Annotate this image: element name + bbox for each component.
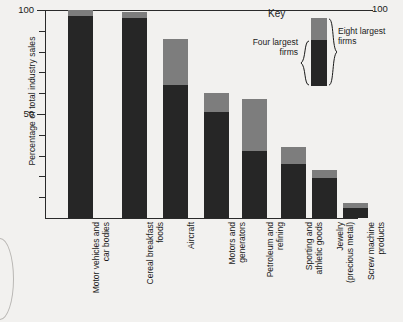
x-axis-label-0: Motor vehicles andcar bodies	[91, 222, 111, 322]
x-axis-label-5: Sporting andathletic goods	[304, 222, 324, 322]
x-axis-label-0-line1: Motor vehicles and	[91, 222, 101, 322]
x-axis-label-5-line1: Sporting and	[304, 222, 314, 322]
x-axis-label-5-line2: athletic goods	[314, 222, 324, 322]
x-axis-label-3: Motors andgenerators	[227, 222, 247, 322]
bar-segment-eight-largest	[242, 99, 267, 151]
bar-segment-four-largest	[281, 164, 306, 218]
bar-7	[343, 203, 368, 218]
legend-label-four-line3: firms	[280, 47, 298, 57]
bar-0	[68, 10, 93, 218]
legend-label-four-line2: largest	[272, 37, 298, 47]
bar-segment-four-largest	[163, 85, 188, 218]
bar-1	[122, 12, 147, 218]
x-axis-label-7-line1: Screw machine	[366, 222, 376, 322]
bar-2	[163, 39, 188, 218]
legend-brace-left	[300, 40, 310, 86]
legend-swatch	[311, 18, 327, 86]
legend-brace-right	[328, 18, 338, 86]
bar-segment-four-largest	[122, 18, 147, 218]
bar-3	[204, 93, 229, 218]
bar-segment-four-largest	[204, 112, 229, 218]
legend-swatch-eight-largest	[311, 18, 327, 40]
bar-segment-eight-largest	[281, 147, 306, 164]
x-axis-label-4-line2: refining	[275, 222, 285, 322]
bar-4	[242, 99, 267, 218]
bar-segment-four-largest	[343, 208, 368, 218]
x-axis-label-4: Petroleum andrefining	[265, 222, 285, 322]
x-axis-label-6: Jewelry(precious metal)	[335, 222, 355, 322]
x-axis-label-1: Cereal breakfastfoods	[145, 222, 165, 322]
x-axis-label-7-line2: products	[376, 222, 386, 322]
legend-label-four-line1: Four	[253, 37, 270, 47]
x-axis-label-6-line1: Jewelry	[335, 222, 345, 322]
bar-5	[281, 147, 306, 218]
legend-label-eight-line2: largest	[360, 26, 386, 36]
bar-segment-eight-largest	[163, 39, 188, 85]
legend-label-four-largest: Four largest firms	[252, 37, 298, 57]
x-axis-label-1-line1: Cereal breakfast	[145, 222, 155, 322]
x-axis-label-6-line2: (precious metal)	[345, 222, 355, 322]
legend-label-eight-largest: Eight largest firms	[338, 26, 392, 46]
x-axis-label-2-line1: Aircraft	[186, 222, 196, 322]
bar-segment-four-largest	[68, 16, 93, 218]
legend-label-eight-line3: firms	[338, 36, 356, 46]
x-axis-label-0-line2: car bodies	[101, 222, 111, 322]
x-axis-label-3-line2: generators	[237, 222, 247, 322]
legend-title: Key	[268, 8, 285, 19]
bar-chart: Percentage of total industry sales 100 1…	[0, 0, 403, 322]
x-axis-label-1-line2: foods	[155, 222, 165, 322]
bar-segment-eight-largest	[204, 93, 229, 112]
bar-segment-four-largest	[242, 151, 267, 218]
x-axis-label-3-line1: Motors and	[227, 222, 237, 322]
legend-swatch-four-largest	[311, 40, 327, 86]
x-axis-label-2: Aircraft	[186, 222, 196, 322]
bar-6	[312, 170, 337, 218]
x-axis-label-4-line1: Petroleum and	[265, 222, 275, 322]
legend-label-eight-line1: Eight	[338, 26, 357, 36]
bar-segment-eight-largest	[312, 170, 337, 178]
bar-segment-four-largest	[312, 178, 337, 218]
x-axis-label-7: Screw machineproducts	[366, 222, 386, 322]
